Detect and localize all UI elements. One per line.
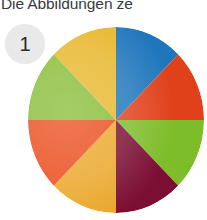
figure-number-badge: 1: [5, 24, 45, 64]
pie-highlight-overlay: [28, 27, 204, 213]
figure-number-label: 1: [5, 24, 45, 64]
pie-slices: [28, 27, 204, 213]
caption-text: Die Abbildungen ze: [1, 0, 207, 15]
figure-panel: Die Abbildungen ze: [0, 0, 207, 220]
pie-chart: [28, 26, 204, 214]
pie-chart-svg: [28, 26, 204, 214]
